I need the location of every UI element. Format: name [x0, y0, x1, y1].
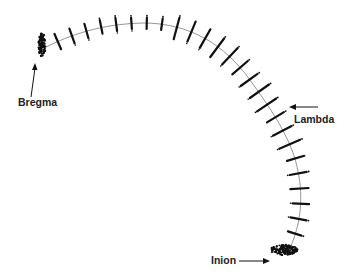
arrow-left-icon	[289, 104, 296, 110]
lambda-label: Lambda	[294, 113, 334, 125]
semilandmark-tick	[267, 112, 284, 122]
semilandmark-ticks	[55, 15, 310, 237]
semilandmark-tick	[290, 188, 308, 189]
semilandmark-tick	[293, 203, 310, 204]
bregma-label: Bregma	[18, 96, 57, 108]
semilandmark-tick	[279, 140, 300, 149]
semilandmark-tick	[115, 18, 117, 31]
arrow-up-icon	[32, 63, 38, 70]
semilandmark-tick	[232, 61, 248, 74]
semilandmark-tick	[187, 22, 195, 42]
semilandmark-tick	[257, 99, 276, 112]
semilandmark-tick	[290, 217, 306, 220]
semilandmark-tick	[161, 19, 163, 30]
semilandmark-tick	[200, 29, 211, 48]
landmark-diagram: Bregma Lambda Inion	[0, 0, 353, 275]
arrow-right-icon	[263, 258, 270, 264]
semilandmark-tick	[273, 126, 292, 136]
midline-curve	[44, 23, 301, 248]
arc-figure	[0, 0, 353, 275]
semilandmark-tick	[250, 85, 269, 99]
inion-label: Inion	[211, 254, 236, 266]
semilandmark-tick	[131, 18, 132, 29]
landmark-point-clouds	[38, 33, 299, 256]
arrows	[31, 63, 318, 264]
semilandmark-tick	[100, 20, 103, 33]
semilandmark-tick	[210, 39, 224, 58]
semilandmark-tick	[174, 18, 180, 39]
semilandmark-tick	[241, 74, 258, 86]
semilandmark-tick	[290, 172, 307, 175]
semilandmark-tick	[55, 34, 62, 49]
semilandmark-tick	[69, 29, 74, 44]
